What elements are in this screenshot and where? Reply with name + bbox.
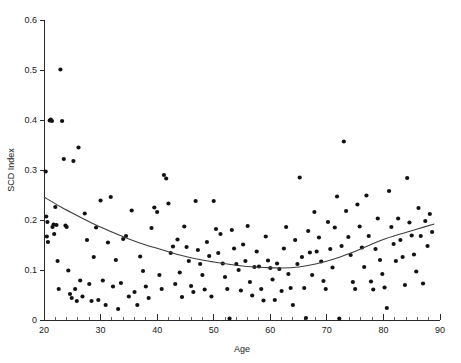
data-point: [423, 219, 427, 223]
data-point: [241, 242, 245, 246]
data-point: [205, 240, 209, 244]
x-tick-label: 80: [378, 325, 388, 335]
data-point: [87, 282, 91, 286]
data-point: [85, 238, 89, 242]
data-point: [412, 252, 416, 256]
data-point: [248, 280, 252, 284]
data-point: [351, 280, 355, 284]
data-point: [401, 255, 405, 259]
data-point: [376, 216, 380, 220]
data-point: [239, 288, 243, 292]
y-tick-label: 0.3: [24, 165, 37, 175]
data-point: [312, 210, 316, 214]
data-point: [218, 232, 222, 236]
data-point: [330, 265, 334, 269]
data-point: [416, 206, 420, 210]
data-point: [184, 245, 188, 249]
data-point: [308, 250, 312, 254]
data-point: [367, 234, 371, 238]
data-point: [289, 286, 293, 290]
data-point: [385, 306, 389, 310]
data-point: [144, 284, 148, 288]
data-point: [405, 176, 409, 180]
data-point: [166, 201, 170, 205]
y-axis-ticks: [40, 20, 44, 320]
data-point: [71, 159, 75, 163]
data-point: [104, 303, 108, 307]
data-point: [92, 255, 96, 259]
data-point: [180, 295, 184, 299]
y-axis-title: SCD Index: [6, 148, 16, 192]
data-point: [407, 220, 411, 224]
data-point: [230, 228, 234, 232]
data-point: [44, 214, 48, 218]
data-point: [209, 294, 213, 298]
y-tick-label: 0.4: [24, 115, 37, 125]
data-point: [173, 282, 177, 286]
x-axis-major-ticks: [44, 314, 440, 320]
data-point: [326, 220, 330, 224]
data-point: [68, 292, 72, 296]
data-point: [66, 268, 70, 272]
data-point: [333, 225, 337, 229]
data-point: [189, 284, 193, 288]
data-point: [321, 279, 325, 283]
data-point: [328, 247, 332, 251]
data-point: [282, 246, 286, 250]
data-point: [237, 268, 241, 272]
data-point: [227, 316, 231, 320]
data-point: [355, 202, 359, 206]
data-point: [392, 242, 396, 246]
data-point: [194, 199, 198, 203]
data-point: [182, 224, 186, 228]
data-point: [198, 262, 202, 266]
y-tick-label: 0.6: [24, 15, 37, 25]
data-point: [270, 277, 274, 281]
data-point: [175, 237, 179, 241]
data-point: [304, 316, 308, 320]
x-tick-label: 20: [39, 325, 49, 335]
data-point: [200, 273, 204, 277]
data-point: [337, 316, 341, 320]
data-point: [295, 262, 299, 266]
x-tick-label: 40: [152, 325, 162, 335]
data-point: [317, 235, 321, 239]
data-point: [44, 169, 48, 173]
data-point: [53, 205, 57, 209]
data-point: [50, 119, 54, 123]
data-point: [428, 212, 432, 216]
data-point: [127, 294, 131, 298]
data-point: [421, 281, 425, 285]
data-point: [398, 238, 402, 242]
y-axis: 00.10.20.30.40.50.6: [24, 15, 44, 325]
data-point: [275, 261, 279, 265]
data-point: [298, 175, 302, 179]
data-point: [344, 209, 348, 213]
data-point: [280, 289, 284, 293]
data-point: [109, 195, 113, 199]
x-tick-label: 60: [265, 325, 275, 335]
data-point: [243, 259, 247, 263]
data-point: [160, 287, 164, 291]
data-point: [324, 287, 328, 291]
data-point: [55, 259, 59, 263]
data-point: [382, 285, 386, 289]
data-point: [259, 287, 263, 291]
data-point: [342, 139, 346, 143]
data-point: [58, 67, 62, 71]
data-point: [60, 119, 64, 123]
data-point: [178, 270, 182, 274]
quadratic-fit-curve: [44, 197, 434, 268]
data-point: [419, 234, 423, 238]
data-point: [353, 287, 357, 291]
data-point: [45, 220, 49, 224]
data-point: [147, 296, 151, 300]
data-point: [138, 254, 142, 258]
data-point: [284, 225, 288, 229]
data-point: [250, 293, 254, 297]
data-point: [369, 279, 373, 283]
data-point: [141, 269, 145, 273]
data-point: [380, 272, 384, 276]
data-point: [346, 235, 350, 239]
data-point: [306, 229, 310, 233]
